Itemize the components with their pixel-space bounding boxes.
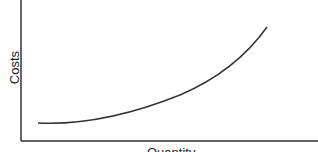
cost-curve-chart (0, 0, 318, 152)
x-axis-label: Quantity (147, 145, 195, 152)
y-axis-label: Costs (7, 48, 22, 88)
cost-curve (38, 27, 267, 123)
